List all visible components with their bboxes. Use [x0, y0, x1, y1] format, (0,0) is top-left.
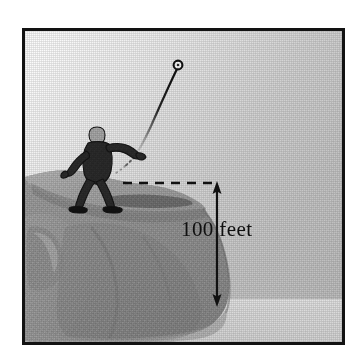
ball [174, 61, 183, 70]
thrower-front-boot [103, 207, 122, 213]
thrower-rear-boot [69, 207, 87, 213]
dimension-label: 100 feet [181, 217, 252, 242]
illustration-frame: 100 feet [22, 28, 345, 345]
illustration-canvas: 100 feet [0, 0, 361, 362]
sky-layer [25, 31, 342, 342]
